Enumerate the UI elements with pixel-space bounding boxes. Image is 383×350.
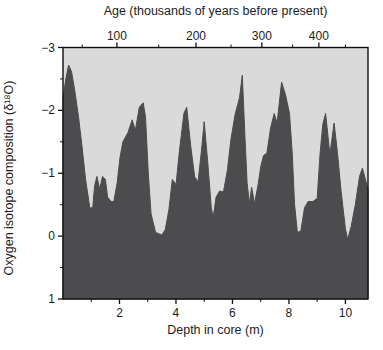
depth-tick-label: 10 [339, 306, 353, 320]
age-tick-label: 400 [309, 29, 329, 43]
isotope-depth-chart: Age (thousands of years before present) … [0, 0, 383, 350]
depth-tick-label: 8 [286, 306, 293, 320]
depth-tick-label: 6 [229, 306, 236, 320]
isotope-depth-figure: Age (thousands of years before present) … [0, 0, 383, 350]
age-tick-label: 100 [107, 29, 127, 43]
isotope-tick-label: 0 [48, 229, 55, 243]
isotope-tick-label: −2 [41, 103, 55, 117]
isotope-axis-title: Oxygen isotope composition (δ¹⁸O) [2, 81, 16, 276]
age-axis-title: Age (thousands of years before present) [104, 4, 328, 18]
isotope-tick-label: −3 [41, 41, 55, 55]
age-tick-label: 200 [186, 29, 206, 43]
depth-tick-label: 4 [173, 306, 180, 320]
depth-tick-label: 2 [116, 306, 123, 320]
depth-axis-title: Depth in core (m) [167, 323, 264, 337]
age-tick-label: 300 [252, 29, 272, 43]
isotope-tick-label: 1 [48, 292, 55, 306]
isotope-tick-label: −1 [41, 166, 55, 180]
